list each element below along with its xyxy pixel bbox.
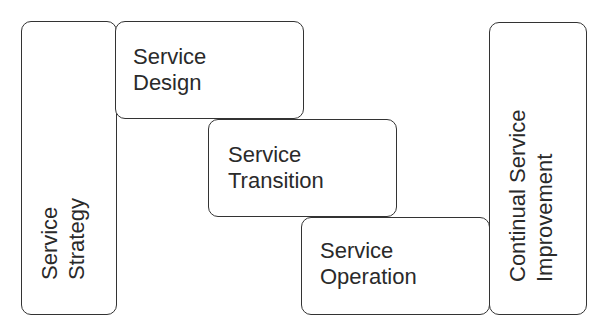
service-operation-line1: Service [320,238,417,264]
service-transition-line1: Service [228,142,324,168]
service-operation-label: Service Operation [320,238,417,290]
service-design-line1: Service [133,44,206,70]
service-strategy-label: Service Strategy [36,198,90,280]
service-transition-label: Service Transition [228,142,324,194]
service-design-label: Service Design [133,44,206,96]
csi-line1: Continual Service [504,110,531,282]
service-transition-box: Service Transition [208,119,397,217]
service-strategy-line2: Strategy [63,198,90,280]
csi-line2: Improvement [531,110,558,282]
service-strategy-line1: Service [36,198,63,280]
service-transition-line2: Transition [228,168,324,194]
service-design-line2: Design [133,70,206,96]
service-operation-box: Service Operation [301,217,490,315]
continual-service-improvement-box: Continual Service Improvement [489,22,587,315]
service-strategy-box: Service Strategy [21,21,117,315]
continual-service-improvement-label: Continual Service Improvement [504,110,558,282]
service-operation-line2: Operation [320,264,417,290]
service-design-box: Service Design [115,21,304,119]
